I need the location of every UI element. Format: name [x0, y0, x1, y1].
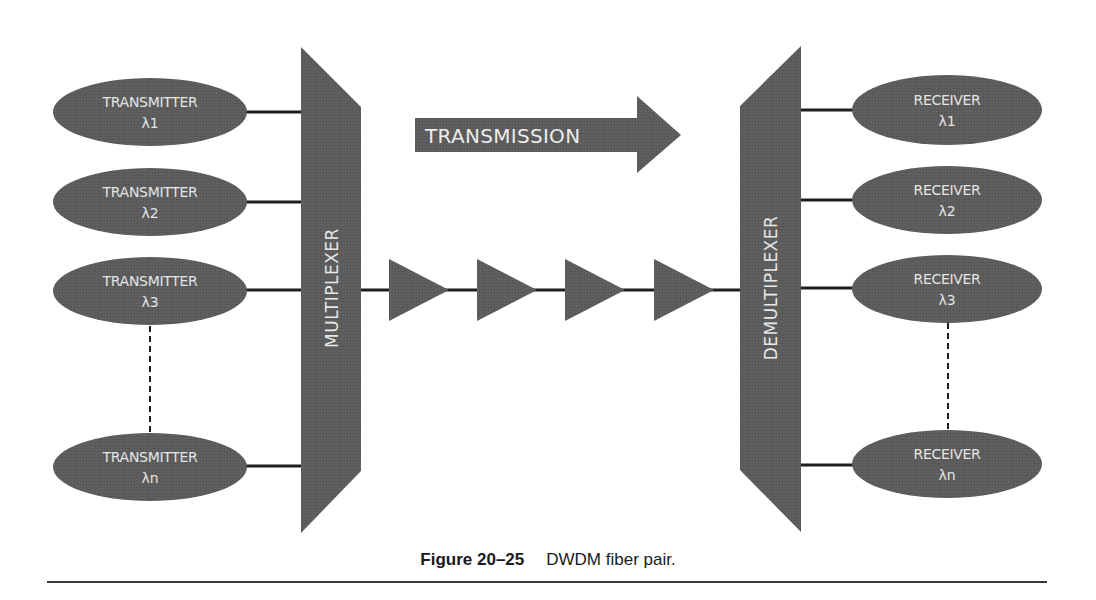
transmitter-connectors: [246, 112, 302, 466]
receiver-wavelength: λn: [938, 467, 955, 483]
figure-caption-text: DWDM fiber pair.: [546, 550, 675, 569]
dwdm-diagram: TRANSMITTER λ1 TRANSMITTER λ2 TRANSMITTE…: [0, 0, 1096, 600]
receiver-node-1: RECEIVER λ1: [852, 75, 1042, 145]
demultiplexer-label: DEMULTIPLEXER: [761, 216, 781, 361]
receiver-node-3: RECEIVER λ3: [852, 255, 1042, 323]
transmission-label: TRANSMISSION: [424, 124, 580, 148]
amplifier-triangle-icon: [565, 259, 625, 321]
amplifier-triangle-icon: [654, 259, 714, 321]
multiplexer-block: MULTIPLEXER: [301, 47, 361, 533]
receiver-group: RECEIVER λ1 RECEIVER λ2 RECEIVER λ3 RECE…: [852, 75, 1042, 498]
transmitter-group: TRANSMITTER λ1 TRANSMITTER λ2 TRANSMITTE…: [53, 78, 247, 501]
transmitter-title: TRANSMITTER: [102, 273, 199, 289]
amplifier-triangle-icon: [389, 259, 449, 321]
transmitter-node-1: TRANSMITTER λ1: [53, 78, 247, 146]
transmitter-node-3: TRANSMITTER λ3: [53, 257, 247, 325]
transmission-arrow: TRANSMISSION: [415, 96, 681, 173]
receiver-title: RECEIVER: [913, 182, 981, 198]
transmitter-wavelength: λ3: [141, 294, 158, 310]
receiver-title: RECEIVER: [913, 271, 981, 287]
receiver-connectors: [800, 110, 854, 465]
transmitter-wavelength: λn: [141, 470, 158, 486]
transmitter-node-n: TRANSMITTER λn: [53, 433, 247, 501]
receiver-wavelength: λ3: [938, 292, 955, 308]
transmitter-wavelength: λ2: [141, 205, 158, 221]
demultiplexer-block: DEMULTIPLEXER: [740, 46, 801, 532]
transmitter-node-2: TRANSMITTER λ2: [53, 168, 247, 236]
transmitter-title: TRANSMITTER: [102, 449, 199, 465]
receiver-wavelength: λ2: [938, 203, 955, 219]
transmitter-title: TRANSMITTER: [102, 184, 199, 200]
transmitter-wavelength: λ1: [141, 115, 158, 131]
figure-number: Figure 20–25: [420, 550, 524, 569]
transmitter-title: TRANSMITTER: [102, 94, 199, 110]
amplifier-triangle-icon: [477, 259, 537, 321]
receiver-node-2: RECEIVER λ2: [852, 166, 1042, 234]
receiver-wavelength: λ1: [938, 113, 955, 129]
caption-rule-divider: [47, 581, 1047, 583]
receiver-title: RECEIVER: [913, 92, 981, 108]
receiver-title: RECEIVER: [913, 446, 981, 462]
figure-caption: Figure 20–25DWDM fiber pair.: [0, 550, 1096, 570]
multiplexer-label: MULTIPLEXER: [322, 228, 342, 348]
receiver-node-n: RECEIVER λn: [852, 430, 1042, 498]
